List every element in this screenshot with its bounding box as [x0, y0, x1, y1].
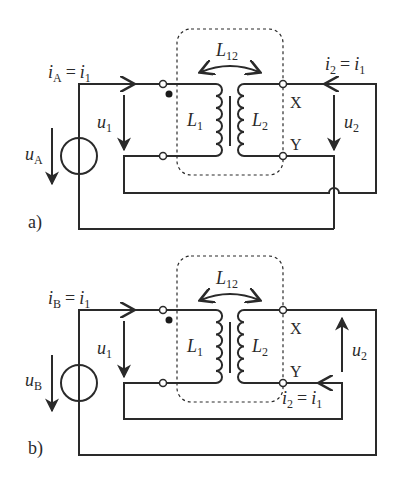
terminal-x: [280, 307, 287, 314]
label-i2: i2=i1: [325, 54, 365, 77]
label-u1: u1: [97, 112, 112, 135]
secondary-wire-top: [124, 84, 376, 193]
label-l1: L1: [186, 110, 203, 133]
panel-label-a: a): [28, 212, 42, 233]
circuit-diagram: iA=i1 u1 uA a) L12 L1 L2 X Y i2=i1 u2 iB…: [0, 0, 399, 484]
label-l1: L1: [186, 336, 203, 359]
label-x: X: [290, 94, 302, 111]
label-u2: u2: [344, 112, 359, 135]
panel-b: iB=i1 u1 uB b) L12 L1 L2 X Y i2=i1 u2: [25, 256, 376, 459]
terminal-x: [280, 81, 287, 88]
label-ia: iA=i1: [48, 62, 91, 85]
label-l2: L2: [251, 110, 268, 133]
label-y: Y: [290, 136, 302, 153]
label-ub: uB: [25, 370, 42, 393]
panel-label-b: b): [28, 438, 43, 459]
panel-a: iA=i1 u1 uA a) L12 L1 L2 X Y i2=i1 u2: [25, 29, 376, 233]
terminal-primary-top: [160, 81, 167, 88]
terminal-primary-bottom: [160, 380, 167, 387]
polarity-dot: [166, 317, 173, 324]
polarity-dot: [166, 91, 173, 98]
mutual-coupling-arrow: [201, 66, 259, 72]
label-x: X: [290, 320, 302, 337]
label-i2: i2=i1: [282, 388, 322, 411]
secondary-wire: [124, 383, 342, 419]
terminal-y: [280, 153, 287, 160]
terminal-primary-top: [160, 307, 167, 314]
label-ua: uA: [25, 144, 43, 167]
label-y: Y: [290, 363, 302, 380]
terminal-y: [280, 380, 287, 387]
label-l12: L12: [215, 268, 238, 291]
label-u2: u2: [352, 340, 367, 363]
label-ib: iB=i1: [48, 288, 90, 311]
terminal-primary-bottom: [160, 153, 167, 160]
label-u1: u1: [97, 338, 112, 361]
label-l2: L2: [251, 336, 268, 359]
mutual-coupling-arrow: [201, 294, 259, 300]
label-l12: L12: [215, 40, 238, 63]
